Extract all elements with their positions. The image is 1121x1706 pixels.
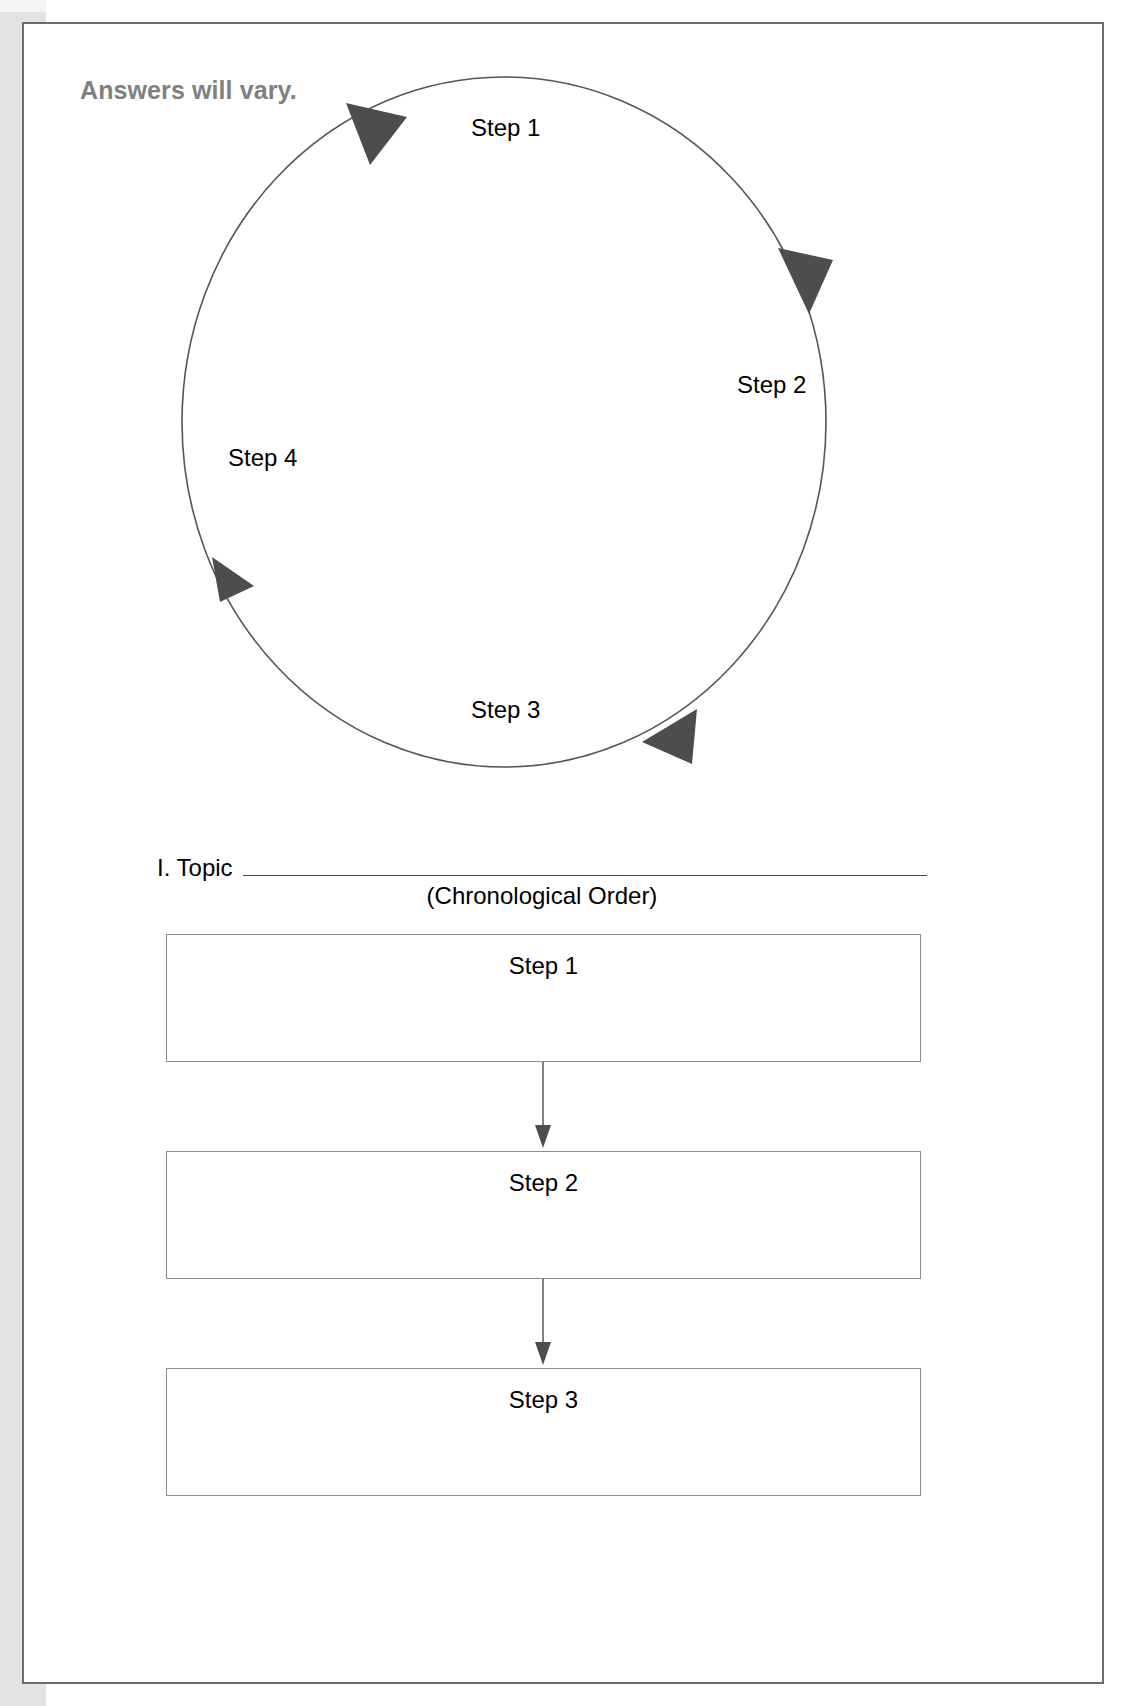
topic-blank-line[interactable] xyxy=(243,875,927,876)
cycle-arrowhead-2-icon xyxy=(778,248,833,314)
flow-connector-2-arrowhead-icon xyxy=(535,1342,551,1365)
cycle-step-label-2: Step 2 xyxy=(737,371,806,399)
flow-connector-1 xyxy=(166,1062,921,1151)
cycle-step-label-4: Step 4 xyxy=(228,444,297,472)
worksheet-page: Answers will vary. Step 1 Step 2 Step 3 … xyxy=(22,22,1104,1684)
flow-step-box-1-title: Step 1 xyxy=(167,952,920,980)
topic-row: I. Topic xyxy=(157,846,927,880)
flow-step-box-2[interactable]: Step 2 xyxy=(166,1151,921,1279)
flow-connector-2 xyxy=(166,1279,921,1368)
flow-step-box-1[interactable]: Step 1 xyxy=(166,934,921,1062)
flow-step-box-2-title: Step 2 xyxy=(167,1169,920,1197)
flow-connector-2-svg xyxy=(166,1279,921,1368)
page-top-bleed xyxy=(0,0,46,12)
flow-connector-1-svg xyxy=(166,1062,921,1151)
flow-step-box-3-title: Step 3 xyxy=(167,1386,920,1414)
page-top-margin xyxy=(46,0,1121,22)
cycle-circle-outline xyxy=(182,77,826,767)
cycle-arrowhead-1-icon xyxy=(346,103,407,165)
flow-connector-1-arrowhead-icon xyxy=(535,1125,551,1148)
cycle-step-label-1: Step 1 xyxy=(471,114,540,142)
page-header-ghost-text xyxy=(174,20,674,40)
cycle-step-label-3: Step 3 xyxy=(471,696,540,724)
cycle-organizer: Step 1 Step 2 Step 3 Step 4 xyxy=(174,64,894,794)
cycle-arrowhead-4-icon xyxy=(212,557,254,602)
cycle-organizer-svg xyxy=(174,64,894,794)
flow-step-box-3[interactable]: Step 3 xyxy=(166,1368,921,1496)
chronological-order-caption: (Chronological Order) xyxy=(157,882,927,910)
topic-label: I. Topic xyxy=(157,856,243,880)
